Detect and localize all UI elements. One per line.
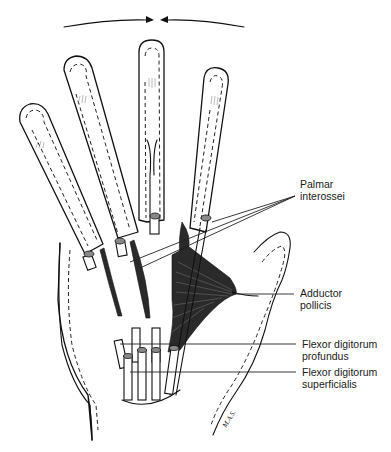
label-flexor-digitorum-superficialis: Flexor digitorum superficialis <box>302 366 377 390</box>
label-line-2: interossei <box>300 190 345 202</box>
hand-anatomy-diagram: M.A.S. Palmar interossei Adductor pollic… <box>0 0 391 452</box>
label-adductor-pollicis: Adductor pollicis <box>300 287 342 311</box>
flexor-tendons <box>114 328 180 404</box>
adductor-pollicis-muscle <box>168 246 258 352</box>
label-flexor-digitorum-profundus: Flexor digitorum profundus <box>302 338 377 362</box>
label-line-1: Palmar <box>300 178 345 190</box>
label-line-2: superficialis <box>302 378 377 390</box>
adduction-arrows <box>64 16 244 27</box>
label-line-1: Flexor digitorum <box>302 338 377 350</box>
finger-middle <box>139 40 164 222</box>
label-line-2: pollicis <box>300 299 342 311</box>
label-line-1: Adductor <box>300 287 342 299</box>
label-line-2: profundus <box>302 350 377 362</box>
finger-index <box>190 68 228 232</box>
label-palmar-interossei: Palmar interossei <box>300 178 345 202</box>
artist-signature: M.A.S. <box>220 409 237 430</box>
label-line-1: Flexor digitorum <box>302 366 377 378</box>
